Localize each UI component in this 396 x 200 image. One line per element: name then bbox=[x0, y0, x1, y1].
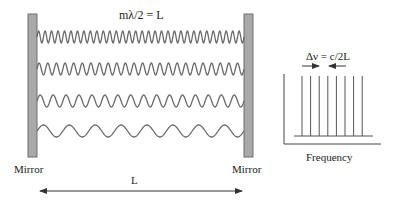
mode-spacing-label: Δν = c/2L bbox=[306, 50, 350, 62]
right-mirror bbox=[244, 14, 253, 157]
frequency-axis-label: Frequency bbox=[306, 151, 352, 163]
length-label: L bbox=[131, 174, 138, 186]
left-mirror-label: Mirror bbox=[14, 163, 43, 175]
resonance-condition-label: mλ/2 = L bbox=[119, 8, 164, 23]
laser-cavity-diagram bbox=[0, 0, 396, 200]
right-mirror-label: Mirror bbox=[232, 163, 261, 175]
mode-lines bbox=[302, 76, 362, 136]
left-mirror bbox=[28, 14, 37, 157]
mode-wave-1 bbox=[37, 31, 244, 43]
mode-wave-2 bbox=[37, 63, 244, 75]
standing-wave-modes bbox=[37, 31, 244, 137]
spectrum-plot bbox=[284, 66, 381, 144]
mode-wave-4 bbox=[37, 125, 244, 137]
mode-wave-3 bbox=[37, 95, 244, 107]
